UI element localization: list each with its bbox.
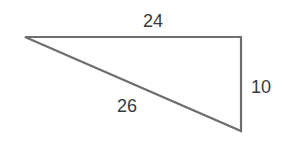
triangle-diagram: 24 10 26 <box>0 0 286 142</box>
top-side-label: 24 <box>143 11 163 31</box>
right-side-label: 10 <box>251 77 271 97</box>
hypotenuse-label: 26 <box>117 96 137 116</box>
right-triangle <box>25 37 241 131</box>
